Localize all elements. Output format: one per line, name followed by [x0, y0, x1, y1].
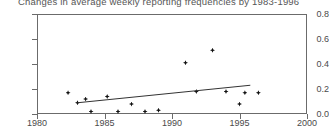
x-tick-label: 1985 [85, 118, 125, 128]
x-tick-label: 1980 [17, 118, 57, 128]
y-tick-label: 0.4 [303, 59, 329, 69]
y-tick-mark [32, 89, 37, 90]
y-tick-label: 0.6 [303, 34, 329, 44]
y-tick-mark [32, 64, 37, 65]
y-tick-label: 0.2 [303, 84, 329, 94]
plot-frame [37, 14, 307, 114]
x-tick-label: 1990 [152, 118, 192, 128]
chart-title: Changes in average weekly reporting freq… [18, 0, 299, 7]
x-tick-label: 1995 [220, 118, 260, 128]
y-tick-mark [32, 39, 37, 40]
y-tick-mark [32, 14, 37, 15]
chart-container: Changes in average weekly reporting freq… [0, 0, 329, 135]
y-tick-label: 0.8 [303, 9, 329, 19]
x-tick-label: 2000 [287, 118, 327, 128]
